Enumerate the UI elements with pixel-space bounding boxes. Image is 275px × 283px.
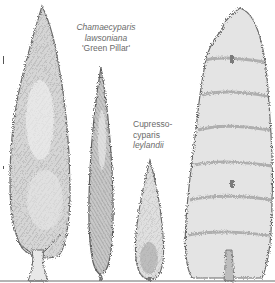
tree-chamaecyparis — [89, 67, 113, 281]
tree-cupressocyparis — [135, 160, 163, 281]
label-cupressocyparis: Cupresso- cyparis leylandii — [133, 119, 172, 151]
label-line: 'Green Pillar' — [66, 43, 146, 54]
label-line: lawsoniana — [66, 33, 146, 44]
label-chamaecyparis: Chamaecyparis lawsoniana 'Green Pillar' — [66, 22, 146, 54]
tree-illustration: Chamaecyparis lawsoniana 'Green Pillar' … — [0, 0, 275, 283]
label-line: cyparis — [133, 130, 172, 141]
edge-mark — [3, 166, 4, 169]
label-line: Cupresso- — [133, 119, 172, 130]
label-line: leylandii — [133, 140, 172, 151]
tree-right — [185, 8, 272, 281]
tree-left — [10, 6, 70, 281]
label-line: Chamaecyparis — [66, 22, 146, 33]
edge-mark — [3, 56, 4, 64]
